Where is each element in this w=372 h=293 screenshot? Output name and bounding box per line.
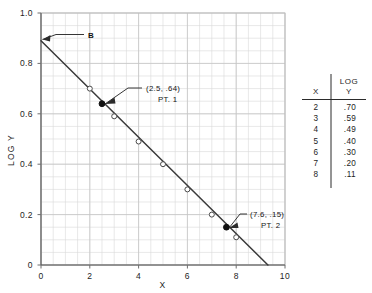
x-tick-2: 2: [87, 271, 92, 281]
chart-svg: 0246810 00.20.40.60.81.0 X LOG Y B (2.5,…: [0, 0, 372, 293]
table-cell-logy: .20: [344, 159, 356, 168]
table-header-logy-line1: LOG: [340, 77, 358, 86]
data-point-x5: [161, 162, 166, 167]
table-cell-x: 3: [314, 114, 319, 123]
table-cell-logy: .49: [344, 125, 356, 134]
pt1-coords-label: (2.5, .64): [146, 84, 180, 93]
data-point-x8: [234, 235, 239, 240]
y-axis-title: LOG Y: [6, 134, 16, 166]
x-axis-title: X: [160, 280, 167, 290]
intercept-label: B: [88, 31, 94, 40]
highlight-point-2: [224, 224, 230, 230]
data-table: LOG X Y 2.703.594.495.406.307.208.11: [302, 74, 366, 188]
callout-pt2: (7.6, .15) PT. 2: [229, 210, 284, 230]
data-point-x6: [185, 187, 190, 192]
table-cell-logy: .30: [344, 148, 356, 157]
x-tick-8: 8: [234, 271, 239, 281]
table-cell-x: 5: [314, 137, 319, 146]
table-cell-x: 4: [314, 125, 319, 134]
data-point-x3: [112, 114, 117, 119]
table-cell-logy: .11: [344, 170, 356, 179]
table-cell-logy: .59: [344, 114, 356, 123]
pt2-name-label: PT. 2: [261, 221, 280, 230]
table-cell-x: 8: [314, 170, 319, 179]
axis-ticks: [38, 13, 286, 269]
table-header-x: X: [313, 87, 319, 96]
pt2-coords-label: (7.6, .15): [250, 210, 284, 219]
table-cell-x: 2: [314, 103, 319, 112]
y-tick-labels: 00.20.40.60.81.0: [20, 8, 33, 270]
data-point-x4: [136, 139, 141, 144]
pt1-name-label: PT. 1: [158, 95, 177, 104]
y-tick-0: 0: [28, 260, 33, 270]
figure-container: 0246810 00.20.40.60.81.0 X LOG Y B (2.5,…: [0, 0, 372, 293]
table-cell-logy: .40: [344, 137, 356, 146]
table-rows: 2.703.594.495.406.307.208.11: [314, 103, 357, 179]
pt1-arrowhead: [105, 98, 116, 105]
data-point-x7: [209, 212, 214, 217]
grid-minor: [41, 13, 285, 265]
y-tick-0.6: 0.6: [20, 109, 33, 119]
table-cell-x: 7: [314, 159, 319, 168]
data-point-x2: [87, 86, 92, 91]
table-cell-x: 6: [314, 148, 319, 157]
highlight-point-1: [99, 101, 105, 107]
table-header-logy-line2: Y: [346, 87, 352, 96]
x-tick-4: 4: [136, 271, 141, 281]
y-tick-0.4: 0.4: [20, 159, 33, 169]
y-tick-0.2: 0.2: [20, 210, 33, 220]
y-tick-1.0: 1.0: [20, 8, 33, 18]
regression-line: [41, 41, 268, 265]
table-cell-logy: .70: [344, 103, 356, 112]
x-tick-0: 0: [38, 271, 43, 281]
callout-intercept: B: [43, 31, 95, 42]
x-tick-6: 6: [185, 271, 190, 281]
x-tick-10: 10: [280, 271, 290, 281]
y-tick-0.8: 0.8: [20, 58, 33, 68]
pt2-arrowhead: [229, 223, 239, 229]
